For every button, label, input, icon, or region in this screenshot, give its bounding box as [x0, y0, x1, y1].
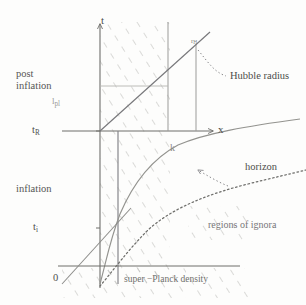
tick-label-t-i-sub: i [36, 226, 38, 234]
planck-length-label: lpl [52, 96, 60, 108]
era-post-inflation: post inflation [16, 68, 52, 92]
t-axis-label: t [101, 14, 104, 26]
axis-ticks [96, 131, 100, 228]
era-post-inflation-line2: inflation [16, 80, 52, 92]
x-axis-label: x [218, 123, 224, 135]
planck-length-sub: pl [55, 100, 61, 108]
tick-label-t-R: tR [32, 124, 40, 137]
horizon-leader [198, 170, 228, 186]
era-inflation: inflation [16, 183, 52, 195]
comoving-scale-label: k [170, 142, 175, 153]
tick-label-t-R-sub: R [35, 129, 40, 137]
hubble-radius-leader [198, 50, 226, 76]
spacetime-diagram-figure: t x 0 post inflation inflation tR ti lpl… [0, 0, 306, 305]
regions-of-ignorance-label: regions of ignora [208, 219, 276, 230]
tick-label-t-i: ti [33, 221, 38, 234]
hubble-radius-tick-sub: H [193, 39, 197, 45]
horizon-label: horizon [245, 161, 277, 173]
era-post-inflation-line1: post [16, 68, 52, 80]
super-planck-density-label: super −Planck density [124, 274, 208, 285]
hubble-radius-tick-label: rH [191, 38, 197, 46]
hubble-radius-label: Hubble radius [230, 70, 289, 82]
diagram-canvas [0, 0, 306, 305]
origin-label: 0 [53, 272, 58, 284]
